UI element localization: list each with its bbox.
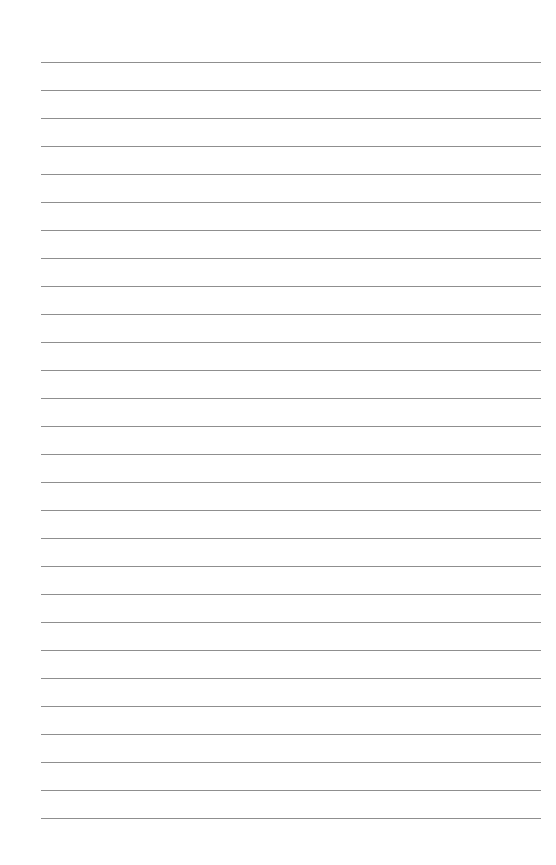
ruled-line bbox=[41, 706, 541, 707]
ruled-line bbox=[41, 174, 541, 175]
ruled-line bbox=[41, 146, 541, 147]
ruled-line bbox=[41, 426, 541, 427]
ruled-line bbox=[41, 454, 541, 455]
ruled-line bbox=[41, 342, 541, 343]
ruled-line bbox=[41, 538, 541, 539]
ruled-line bbox=[41, 650, 541, 651]
ruled-line bbox=[41, 90, 541, 91]
ruled-line bbox=[41, 118, 541, 119]
ruled-line bbox=[41, 566, 541, 567]
lined-paper-page bbox=[0, 0, 556, 865]
ruled-line bbox=[41, 762, 541, 763]
ruled-line bbox=[41, 202, 541, 203]
ruled-line bbox=[41, 734, 541, 735]
ruled-line bbox=[41, 482, 541, 483]
ruled-line bbox=[41, 398, 541, 399]
ruled-line bbox=[41, 790, 541, 791]
ruled-line bbox=[41, 622, 541, 623]
ruled-line bbox=[41, 678, 541, 679]
ruled-line bbox=[41, 594, 541, 595]
ruled-line bbox=[41, 62, 541, 63]
ruled-line bbox=[41, 370, 541, 371]
ruled-line bbox=[41, 258, 541, 259]
ruled-line bbox=[41, 230, 541, 231]
ruled-line bbox=[41, 818, 541, 819]
ruled-line bbox=[41, 510, 541, 511]
ruled-line bbox=[41, 286, 541, 287]
ruled-line bbox=[41, 314, 541, 315]
